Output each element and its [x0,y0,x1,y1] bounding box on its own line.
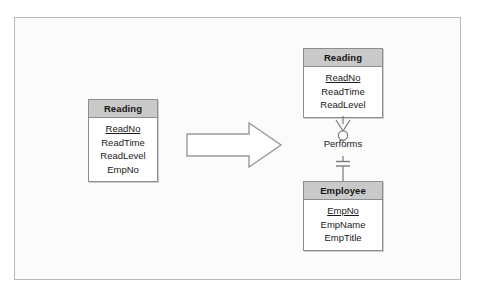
entity-attribute: ReadLevel [89,149,157,163]
entity-title: Reading [304,49,382,67]
entity-attribute-primary-key: ReadNo [304,71,382,85]
entity-box-result-reading[interactable]: Reading ReadNo ReadTime ReadLevel [303,48,383,118]
entity-attribute: EmpTitle [304,231,382,245]
entity-attribute: ReadLevel [304,98,382,112]
entity-attribute-primary-key: ReadNo [89,122,157,136]
relationship-label: Performs [303,138,383,149]
diagram-canvas: Reading ReadNo ReadTime ReadLevel EmpNo … [0,0,485,298]
entity-box-result-employee[interactable]: Employee EmpNo EmpName EmpTitle [303,181,383,251]
entity-title: Employee [304,182,382,200]
entity-attribute-primary-key: EmpNo [304,204,382,218]
right-block-arrow-icon [186,122,282,168]
entity-attribute: EmpNo [89,163,157,177]
entity-attribute-list: ReadNo ReadTime ReadLevel [304,67,382,117]
entity-attribute: ReadTime [89,136,157,150]
entity-attribute: EmpName [304,218,382,232]
entity-attribute-list: ReadNo ReadTime ReadLevel EmpNo [89,118,157,181]
relationship-connector [303,116,383,182]
entity-box-source-reading[interactable]: Reading ReadNo ReadTime ReadLevel EmpNo [88,99,158,182]
entity-attribute-list: EmpNo EmpName EmpTitle [304,200,382,250]
entity-attribute: ReadTime [304,85,382,99]
entity-title: Reading [89,100,157,118]
